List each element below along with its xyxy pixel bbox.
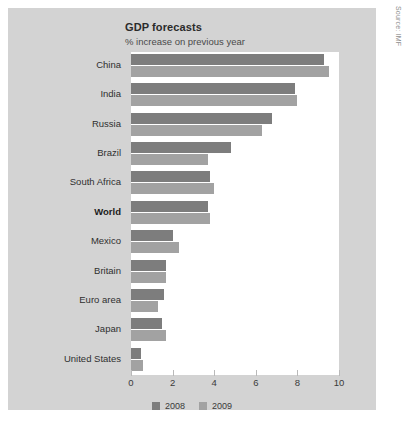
x-tick-label: 8 [295,377,300,388]
x-tick-label: 10 [334,377,345,388]
category-axis-labels: ChinaIndiaRussiaBrazilSouth AfricaWorldM… [18,52,126,375]
x-tick-label: 6 [253,377,258,388]
legend-swatch [199,402,207,410]
x-tick-label: 2 [170,377,175,388]
legend-label: 2009 [212,401,232,411]
chart-title: GDP forecasts [125,21,202,33]
legend-label: 2008 [165,401,185,411]
source-credit-label: Source: IMF [395,6,402,46]
chart-legend: 20082009 [8,398,376,414]
source-credit: Source: IMF [391,4,405,74]
chart-subtitle: % increase on previous year [125,36,245,47]
x-tick [297,370,298,376]
category-label: United States [64,353,121,364]
x-tick [214,370,215,376]
x-axis-ticks [131,52,339,375]
category-label: Brazil [97,147,121,158]
legend-swatch [152,402,160,410]
x-tick [131,370,132,376]
x-tick-label: 0 [128,377,133,388]
category-label: Britain [94,265,121,276]
chart-figure: GDP forecasts % increase on previous yea… [0,0,406,421]
x-tick-label: 4 [212,377,217,388]
category-label: Mexico [91,235,121,246]
x-tick [339,370,340,376]
chart-card: GDP forecasts % increase on previous yea… [8,8,376,410]
category-label: Russia [92,118,121,129]
x-axis-tick-labels: 0246810 [131,377,339,391]
category-label: World [94,206,121,217]
legend-item: 2009 [199,401,232,411]
x-tick [256,370,257,376]
legend-item: 2008 [152,401,185,411]
x-tick [173,370,174,376]
category-label: Japan [95,323,121,334]
category-label: Euro area [79,294,121,305]
category-label: South Africa [70,176,121,187]
category-label: India [100,88,121,99]
category-label: China [96,59,121,70]
